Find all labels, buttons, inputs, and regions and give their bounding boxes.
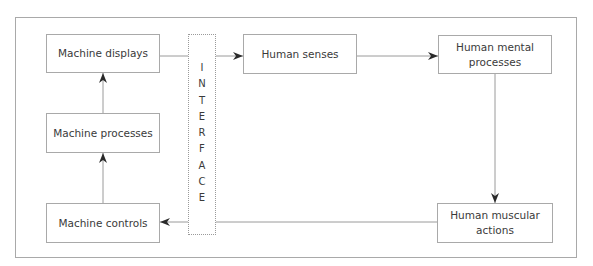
interface-letter: N	[198, 76, 205, 92]
interface-letter: E	[199, 109, 205, 125]
interface-letter: T	[199, 93, 205, 109]
node-label: Machine processes	[53, 126, 153, 141]
interface-letter: I	[201, 60, 204, 76]
node-label: Machine controls	[58, 216, 147, 231]
node-label: Human senses	[261, 47, 338, 62]
interface-column: I N T E R F A C E	[188, 34, 216, 235]
interface-letter: E	[199, 190, 205, 206]
node-human-senses: Human senses	[243, 34, 357, 74]
node-label: Human muscular actions	[450, 208, 540, 238]
node-machine-controls: Machine controls	[46, 203, 160, 243]
node-human-mental-processes: Human mental processes	[438, 35, 552, 74]
interface-letter: R	[199, 125, 206, 141]
node-machine-displays: Machine displays	[46, 34, 160, 73]
node-label: Human mental processes	[453, 40, 537, 70]
interface-letter: F	[199, 141, 205, 157]
interface-letter: C	[199, 174, 206, 190]
node-human-muscular-actions: Human muscular actions	[437, 203, 553, 243]
interface-letter: A	[199, 158, 206, 174]
node-machine-processes: Machine processes	[46, 113, 160, 153]
node-label: Machine displays	[58, 46, 148, 61]
